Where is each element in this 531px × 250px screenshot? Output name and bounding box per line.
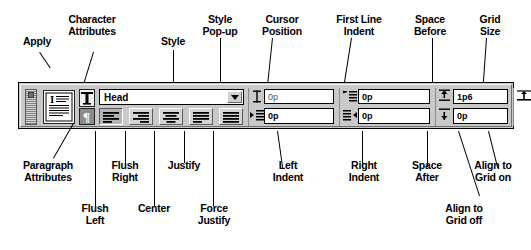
align-right-icon <box>130 109 152 124</box>
callout-label-apply: Apply <box>6 36 68 48</box>
leader-style-popup <box>220 38 221 83</box>
first-line-indent-field[interactable]: 0p <box>358 89 430 104</box>
callout-label-space-after: Space After <box>398 160 456 183</box>
palette-divider-3 <box>435 88 436 126</box>
leader-space-before <box>432 38 433 84</box>
space-after-icon <box>439 108 450 122</box>
apply-button[interactable]: I <box>43 90 75 124</box>
leader-first-line-indent <box>344 38 352 84</box>
leader-style <box>173 50 174 83</box>
callout-label-force-justify: Force Justify <box>185 203 243 226</box>
align-center-icon <box>160 109 182 124</box>
palette-inner: I <box>20 84 512 127</box>
space-before-icon <box>439 89 450 103</box>
palette-divider-2 <box>339 88 340 126</box>
alignment-button-justify[interactable] <box>189 108 213 125</box>
apply-page-icon: I <box>44 91 74 123</box>
i-beam-icon <box>252 90 262 103</box>
right-indent-icon <box>343 109 357 122</box>
chevron-down-icon <box>231 95 239 100</box>
callout-label-right-indent: Right Indent <box>333 160 395 183</box>
callout-label-cursor-position: Cursor Position <box>245 14 319 37</box>
space-before-field[interactable]: 1p6 <box>453 89 508 104</box>
leader-center <box>154 131 155 206</box>
left-indent-icon <box>250 109 264 122</box>
svg-text:¶: ¶ <box>83 109 90 124</box>
callout-label-paragraph-attributes: Paragraph Attributes <box>2 160 94 183</box>
callout-label-left-indent: Left Indent <box>257 160 319 183</box>
leader-flush-left <box>95 131 96 206</box>
callout-label-align-to-grid-off: Align to Grid off <box>430 203 498 226</box>
callout-label-center: Center <box>127 203 181 215</box>
callout-label-first-line-indent: First Line Indent <box>320 14 398 37</box>
callout-label-flush-left: Flush Left <box>68 203 122 226</box>
leader-apply <box>39 52 50 68</box>
character-attributes-button[interactable] <box>79 89 95 107</box>
callout-label-style-popup: Style Pop-up <box>189 14 251 37</box>
palette-divider-4 <box>513 88 514 126</box>
callout-label-grid-size: Grid Size <box>462 14 518 37</box>
leader-cursor-position <box>267 38 273 83</box>
align-force-icon <box>220 109 242 124</box>
align-left-icon <box>100 109 122 124</box>
callout-label-align-to-grid-on: Align to Grid on <box>459 160 527 183</box>
palette-grip[interactable] <box>25 89 37 125</box>
capital-t-icon <box>80 90 94 106</box>
callout-label-character-attributes: Character Attributes <box>49 14 135 37</box>
svg-text:I: I <box>50 93 54 105</box>
alignment-button-flush-right[interactable] <box>129 108 153 125</box>
style-field-value: Head <box>104 91 128 104</box>
cursor-position-field[interactable]: 0p <box>264 89 334 104</box>
measurements-palette[interactable]: I <box>18 82 514 129</box>
pilcrow-icon: ¶ <box>80 109 94 124</box>
space-after-field[interactable]: 0p <box>453 108 508 124</box>
left-indent-field[interactable]: 0p <box>264 108 334 124</box>
grip-knob <box>28 92 34 98</box>
first-line-indent-icon <box>343 90 357 103</box>
align-justify-icon <box>190 109 212 124</box>
alignment-button-flush-left[interactable] <box>99 108 123 125</box>
callout-label-justify: Justify <box>157 160 211 172</box>
paragraph-attributes-button[interactable]: ¶ <box>79 108 95 125</box>
right-indent-field[interactable]: 0p <box>358 108 430 124</box>
callout-label-flush-right: Flush Right <box>98 160 152 183</box>
grid-lock-icon <box>517 90 531 102</box>
leader-force-justify <box>213 131 214 206</box>
style-popup-button[interactable] <box>227 91 242 103</box>
leader-grid-size <box>483 38 487 84</box>
alignment-button-center[interactable] <box>159 108 183 125</box>
alignment-button-force-justify[interactable] <box>219 108 243 125</box>
palette-divider-1 <box>248 88 249 126</box>
diagram-canvas: Apply Character Attributes Style Style P… <box>0 0 531 250</box>
style-field[interactable]: Head <box>99 89 244 105</box>
leader-character-attributes <box>83 52 94 84</box>
callout-label-space-before: Space Before <box>398 14 462 37</box>
callout-label-style: Style <box>143 36 203 48</box>
